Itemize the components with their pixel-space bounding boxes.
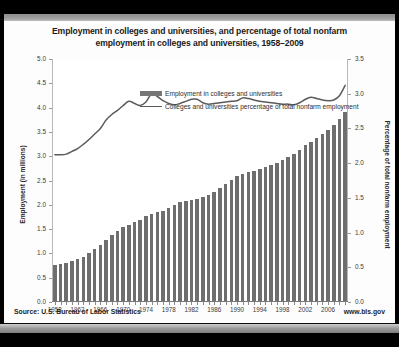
y-tick-label-right: 3.0 bbox=[355, 91, 381, 97]
y-tick-label-right: 2.5 bbox=[355, 125, 381, 131]
chart-card: Employment in colleges and universities,… bbox=[4, 21, 395, 323]
chart-legend: Employment in colleges and universities … bbox=[140, 87, 359, 113]
chart-title: Employment in colleges and universities,… bbox=[24, 25, 375, 49]
y-tick-label-left: 2.0 bbox=[20, 202, 46, 208]
x-tick-mark bbox=[123, 302, 124, 305]
chart-title-line1: Employment in colleges and universities,… bbox=[52, 26, 347, 36]
x-tick-mark bbox=[106, 302, 107, 305]
x-tick-mark bbox=[237, 302, 238, 305]
y-axis-left-title: Employment (in millions) bbox=[19, 115, 26, 255]
x-tick-mark bbox=[322, 302, 323, 305]
y-tick-label-right: 2.0 bbox=[355, 160, 381, 166]
x-tick-mark bbox=[243, 302, 244, 305]
y-tick-mark-right bbox=[348, 302, 351, 303]
y-tick-mark-right bbox=[348, 163, 351, 164]
bottom-gray-strip bbox=[0, 324, 399, 333]
x-tick-mark bbox=[72, 302, 73, 305]
y-tick-label-left: 0.0 bbox=[20, 299, 46, 305]
x-tick-mark bbox=[191, 302, 192, 305]
x-tick-mark bbox=[220, 302, 221, 305]
y-tick-mark-left bbox=[49, 302, 52, 303]
x-tick-mark bbox=[55, 302, 56, 305]
y-tick-label-left: 5.0 bbox=[20, 56, 46, 62]
x-tick-mark bbox=[61, 302, 62, 305]
legend-bar-swatch-icon bbox=[140, 91, 162, 96]
source-url: www.bls.gov bbox=[344, 308, 385, 315]
legend-item-line: Colleges and universities percentage of … bbox=[140, 100, 359, 113]
legend-line-swatch-icon bbox=[140, 106, 162, 107]
y-tick-label-right: 3.5 bbox=[355, 56, 381, 62]
x-tick-mark bbox=[345, 302, 346, 305]
y-tick-label-left: 4.5 bbox=[20, 80, 46, 86]
x-tick-mark bbox=[334, 302, 335, 305]
x-tick-label: 2006 bbox=[313, 306, 343, 313]
x-tick-mark bbox=[112, 302, 113, 305]
x-tick-mark bbox=[209, 302, 210, 305]
legend-item-bars: Employment in colleges and universities bbox=[140, 87, 359, 100]
y-tick-mark-right bbox=[348, 59, 351, 60]
x-tick-mark bbox=[152, 302, 153, 305]
x-tick-mark bbox=[300, 302, 301, 305]
x-tick-mark bbox=[311, 302, 312, 305]
x-tick-mark bbox=[83, 302, 84, 305]
x-tick-mark bbox=[283, 302, 284, 305]
y-tick-label-right: 0.0 bbox=[355, 299, 381, 305]
y-tick-label-right: 1.0 bbox=[355, 230, 381, 236]
plot-area: 0.00.51.01.52.02.53.03.54.04.55.0 0.00.5… bbox=[52, 59, 348, 302]
screenshot-root: Employment in colleges and universities,… bbox=[0, 0, 399, 347]
x-tick-mark bbox=[157, 302, 158, 305]
x-tick-mark bbox=[254, 302, 255, 305]
y-tick-label-left: 1.5 bbox=[20, 226, 46, 232]
x-tick-mark bbox=[186, 302, 187, 305]
y-tick-mark-right bbox=[348, 198, 351, 199]
y-tick-mark-right bbox=[348, 233, 351, 234]
chart-title-line2: employment in colleges and universities,… bbox=[95, 38, 303, 48]
x-tick-mark bbox=[117, 302, 118, 305]
x-tick-mark bbox=[78, 302, 79, 305]
x-tick-mark bbox=[339, 302, 340, 305]
y-tick-mark-right bbox=[348, 128, 351, 129]
y-tick-label-left: 1.0 bbox=[20, 250, 46, 256]
bottom-border-band bbox=[0, 333, 399, 347]
x-tick-mark bbox=[169, 302, 170, 305]
y-tick-label-left: 3.0 bbox=[20, 153, 46, 159]
y-axis-right-title: Percentage of total nonfarm employment bbox=[384, 110, 391, 260]
x-tick-mark bbox=[294, 302, 295, 305]
x-tick-mark bbox=[197, 302, 198, 305]
y-tick-label-right: 1.5 bbox=[355, 195, 381, 201]
top-gray-strip bbox=[0, 14, 399, 21]
x-tick-mark bbox=[260, 302, 261, 305]
x-tick-mark bbox=[95, 302, 96, 305]
x-tick-mark bbox=[226, 302, 227, 305]
legend-label-bars: Employment in colleges and universities bbox=[165, 90, 282, 97]
y-tick-label-right: 0.5 bbox=[355, 264, 381, 270]
y-tick-label-left: 3.5 bbox=[20, 129, 46, 135]
x-tick-mark bbox=[277, 302, 278, 305]
x-tick-mark bbox=[305, 302, 306, 305]
top-border-band bbox=[0, 0, 399, 14]
x-tick-mark bbox=[271, 302, 272, 305]
y-tick-label-left: 4.0 bbox=[20, 105, 46, 111]
x-tick-mark bbox=[248, 302, 249, 305]
x-tick-mark bbox=[174, 302, 175, 305]
x-tick-mark bbox=[89, 302, 90, 305]
x-tick-mark bbox=[328, 302, 329, 305]
x-tick-mark bbox=[66, 302, 67, 305]
source-note: Source: U.S. Bureau of Labor Statistics bbox=[14, 308, 141, 315]
right-border-edge bbox=[395, 0, 399, 347]
x-tick-mark bbox=[265, 302, 266, 305]
y-tick-label-left: 2.5 bbox=[20, 178, 46, 184]
x-tick-mark bbox=[129, 302, 130, 305]
x-tick-mark bbox=[214, 302, 215, 305]
x-tick-mark bbox=[135, 302, 136, 305]
x-tick-mark bbox=[140, 302, 141, 305]
x-tick-mark bbox=[180, 302, 181, 305]
y-tick-label-left: 0.5 bbox=[20, 275, 46, 281]
x-tick-mark bbox=[231, 302, 232, 305]
x-tick-mark bbox=[146, 302, 147, 305]
x-tick-mark bbox=[203, 302, 204, 305]
x-tick-mark bbox=[288, 302, 289, 305]
y-tick-mark-right bbox=[348, 267, 351, 268]
legend-label-line: Colleges and universities percentage of … bbox=[165, 103, 359, 110]
x-tick-mark bbox=[163, 302, 164, 305]
